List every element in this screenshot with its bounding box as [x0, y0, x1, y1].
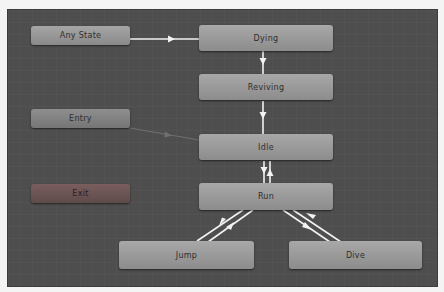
- state-node-any-state[interactable]: Any State: [31, 26, 130, 45]
- state-node-exit[interactable]: Exit: [31, 184, 130, 203]
- state-node-dive[interactable]: Dive: [289, 241, 422, 269]
- state-label: Exit: [72, 189, 88, 198]
- state-node-reviving[interactable]: Reviving: [199, 74, 333, 100]
- state-label: Any State: [60, 31, 102, 40]
- state-label: Entry: [69, 114, 92, 123]
- state-node-dying[interactable]: Dying: [199, 25, 333, 51]
- state-node-jump[interactable]: Jump: [119, 241, 254, 269]
- state-label: Run: [258, 192, 274, 201]
- state-label: Jump: [176, 251, 198, 260]
- state-label: Dive: [346, 251, 365, 260]
- state-label: Reviving: [248, 83, 285, 92]
- state-label: Dying: [254, 34, 279, 43]
- state-node-run[interactable]: Run: [199, 183, 333, 210]
- state-node-idle[interactable]: Idle: [199, 134, 333, 160]
- state-node-entry[interactable]: Entry: [31, 109, 130, 128]
- state-label: Idle: [258, 143, 274, 152]
